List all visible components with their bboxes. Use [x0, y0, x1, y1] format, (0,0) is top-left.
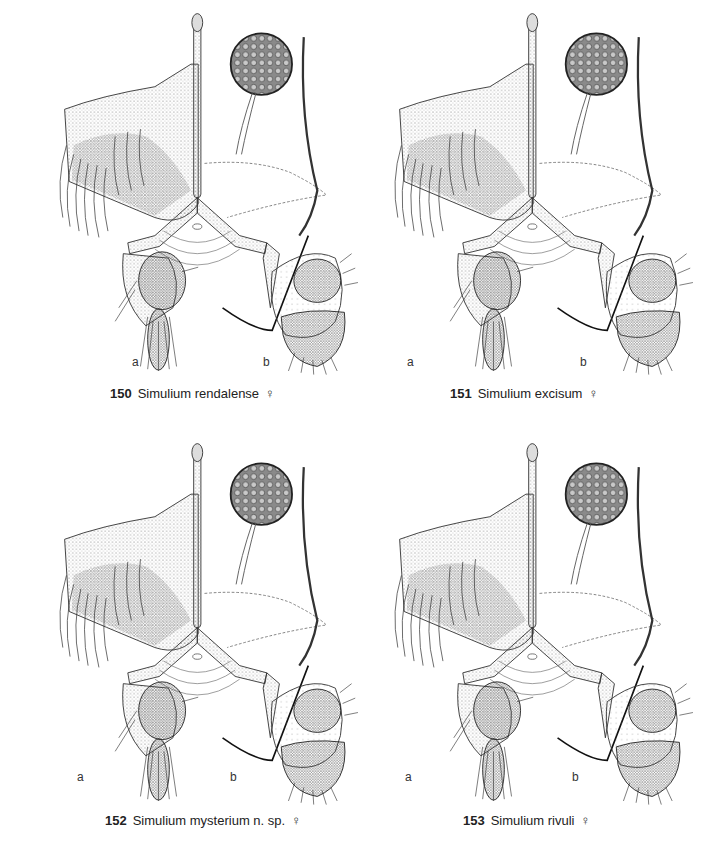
- figure-caption-153: 153Simulium rivuli♀: [463, 813, 590, 828]
- figure-151-illustration: a b: [365, 10, 705, 410]
- species-name: Simulium rendalense: [138, 386, 259, 401]
- figure-number: 150: [110, 386, 132, 401]
- subpanel-label-b: b: [263, 355, 270, 369]
- subpanel-label-a: a: [132, 355, 139, 369]
- figure-caption-150: 150Simulium rendalense♀: [110, 386, 275, 401]
- figure-number: 153: [463, 813, 485, 828]
- species-name: Simulium rivuli: [491, 813, 575, 828]
- female-symbol: ♀: [588, 386, 598, 401]
- genitalia-drawing: [30, 440, 370, 810]
- subpanel-label-b: b: [572, 770, 579, 784]
- species-name: Simulium excisum: [478, 386, 583, 401]
- subpanel-label-a: a: [405, 770, 412, 784]
- subpanel-label-b: b: [230, 770, 237, 784]
- genitalia-drawing: [30, 10, 370, 380]
- figure-153-illustration: a b: [365, 440, 705, 840]
- female-symbol: ♀: [265, 386, 275, 401]
- figure-number: 152: [105, 813, 127, 828]
- figure-number: 151: [450, 386, 472, 401]
- figure-150-illustration: a b: [30, 10, 370, 410]
- genitalia-drawing: [365, 10, 705, 380]
- female-symbol: ♀: [581, 813, 591, 828]
- subpanel-label-a: a: [77, 770, 84, 784]
- figure-caption-152: 152Simulium mysterium n. sp.♀: [105, 813, 301, 828]
- subpanel-label-a: a: [407, 355, 414, 369]
- genitalia-drawing: [365, 440, 705, 810]
- species-name: Simulium mysterium n. sp.: [133, 813, 285, 828]
- figure-caption-151: 151Simulium excisum♀: [450, 386, 598, 401]
- subpanel-label-b: b: [580, 355, 587, 369]
- female-symbol: ♀: [291, 813, 301, 828]
- figure-152-illustration: a b: [30, 440, 370, 840]
